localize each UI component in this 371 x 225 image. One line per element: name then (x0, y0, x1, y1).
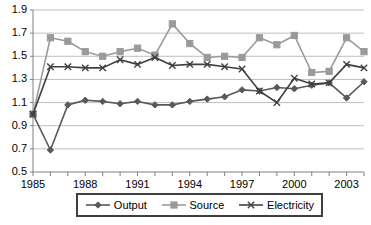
x-axis-tick-label: 1997 (222, 179, 262, 190)
x-axis-tick-label: 1988 (65, 179, 105, 190)
x-axis-tick-label: 2000 (274, 179, 314, 190)
legend-item-label: Electricity (267, 200, 314, 211)
diamond-marker-icon (85, 199, 111, 211)
square-marker-icon (161, 199, 187, 211)
chart-container: 1.91.71.51.31.10.90.70.5 198519881991199… (0, 0, 371, 225)
chart-plot-area (0, 0, 371, 225)
y-axis-tick-label: 1.3 (0, 73, 27, 84)
y-axis-tick-label: 0.7 (0, 143, 27, 154)
legend-item-output[interactable]: Output (85, 199, 147, 211)
chart-legend: OutputSourceElectricity (76, 193, 323, 217)
y-axis-tick-label: 0.9 (0, 120, 27, 131)
y-axis-tick-label: 1.5 (0, 50, 27, 61)
x-axis-tick-label: 2003 (327, 179, 367, 190)
legend-item-electricity[interactable]: Electricity (238, 199, 314, 211)
legend-item-label: Source (190, 200, 225, 211)
y-axis-tick-label: 1.7 (0, 27, 27, 38)
series-output (30, 79, 367, 154)
grid-lines (33, 10, 364, 149)
y-axis-tick-label: 1.9 (0, 4, 27, 15)
series-electricity (30, 54, 367, 117)
x-axis-tick-label: 1985 (13, 179, 53, 190)
legend-item-source[interactable]: Source (161, 199, 225, 211)
chart-axes (30, 10, 364, 176)
cross-marker-icon (238, 199, 264, 211)
y-axis-tick-label: 0.5 (0, 166, 27, 177)
legend-item-label: Output (114, 200, 147, 211)
y-axis-tick-label: 1.1 (0, 97, 27, 108)
x-axis-tick-label: 1994 (170, 179, 210, 190)
x-axis-tick-label: 1991 (118, 179, 158, 190)
